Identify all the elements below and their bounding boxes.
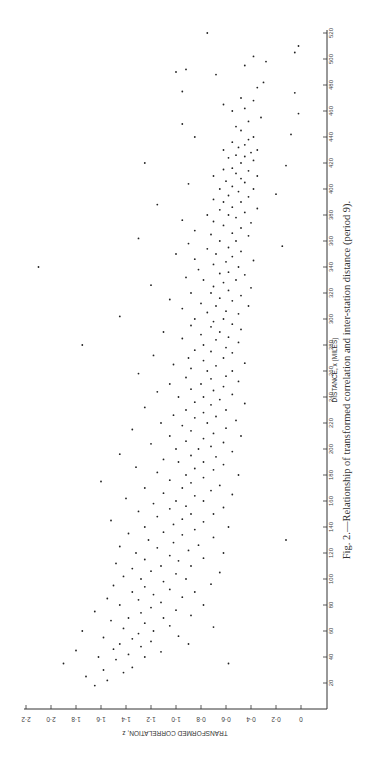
data-point [210,404,212,406]
data-point [231,141,233,143]
data-point [190,455,192,457]
data-point [138,373,140,375]
data-point [94,685,96,687]
data-point [240,201,242,203]
data-point [110,620,112,622]
data-point [144,559,146,561]
data-point [238,313,240,315]
data-point [223,169,225,171]
data-point [213,175,215,177]
data-point [194,468,196,470]
data-point [150,570,152,572]
data-point [190,615,192,617]
correlation-tick-label: 0·2 [271,716,281,723]
data-point [213,433,215,435]
data-point [231,394,233,396]
data-point [235,420,237,422]
data-point [148,539,150,541]
data-point [63,663,65,665]
data-point [190,368,192,370]
data-point [169,383,171,385]
distance-tick-label: 100 [328,573,334,584]
data-point [225,180,227,182]
data-point [231,186,233,188]
data-point [185,409,187,411]
data-point [153,630,155,632]
data-point [169,299,171,301]
data-point [169,479,171,481]
data-point [144,407,146,409]
data-point [240,162,242,164]
data-point [235,154,237,156]
data-point [163,459,165,461]
data-point [213,390,215,392]
data-point [294,52,296,54]
data-point [98,656,100,658]
data-point [275,193,277,195]
data-point [215,365,217,367]
data-point [119,316,121,318]
data-point [215,456,217,458]
distance-tick-label: 400 [328,183,334,194]
data-point [206,312,208,314]
distance-tick-label: 200 [328,443,334,454]
data-point [231,110,233,112]
data-point [206,32,208,34]
data-point [113,585,115,587]
data-point [219,485,221,487]
data-point [210,583,212,585]
data-point [156,472,158,474]
data-point [85,676,87,678]
data-point [115,563,117,565]
data-point [231,232,233,234]
data-point [228,157,230,159]
figure-caption: Fig. 2.—Relationship of transformed corr… [341,201,352,559]
data-point [156,391,158,393]
correlation-tick-label: 0·6 [221,716,231,723]
data-point [194,495,196,497]
distance-tick-label: 320 [328,287,334,298]
data-point [223,464,225,466]
data-point [210,490,212,492]
data-point [185,505,187,507]
data-point [119,643,121,645]
data-point [160,565,162,567]
data-point [175,448,177,450]
data-point [169,435,171,437]
data-point [150,443,152,445]
data-point [150,284,152,286]
correlation-tick-label: 1·8 [71,716,81,723]
data-point [203,500,205,502]
data-point [206,370,208,372]
data-point [181,219,183,221]
data-point [123,672,125,674]
data-point [153,594,155,596]
data-point [173,414,175,416]
data-point [203,521,205,523]
data-point [163,331,165,333]
data-point [175,71,177,73]
data-point [94,611,96,613]
correlation-tick-label: 1·6 [96,716,106,723]
data-point [250,287,252,289]
data-point [223,104,225,106]
data-point [198,544,200,546]
data-point [225,347,227,349]
data-point [194,230,196,232]
data-point [225,261,227,263]
data-point [253,56,255,58]
data-point [203,604,205,606]
data-point [175,573,177,575]
data-point [138,599,140,601]
data-point [156,204,158,206]
data-point [256,175,258,177]
data-point [250,222,252,224]
data-point [225,375,227,377]
data-point [240,251,242,253]
data-point [238,342,240,344]
data-point [156,516,158,518]
distance-tick-label: 480 [328,79,334,90]
distance-tick-label: 360 [328,235,334,246]
data-point [253,188,255,190]
data-point [185,69,187,71]
